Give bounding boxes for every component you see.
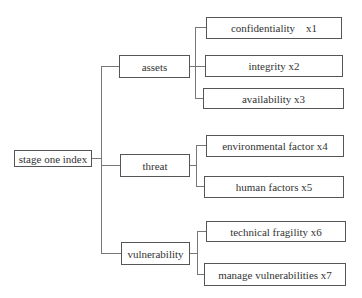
connector-to-x1 [195, 27, 206, 28]
connector-vulnerability-branch [197, 231, 198, 274]
category-node-assets: assets [119, 55, 190, 78]
connector-to-x6 [197, 231, 206, 232]
connector-threat-branch [196, 145, 197, 187]
leaf-node-availability: availability x3 [203, 88, 344, 109]
leaf-node-human-factors: human factors x5 [204, 176, 344, 198]
connector-to-x4 [196, 145, 206, 146]
leaf-node-integrity: integrity x2 [205, 55, 343, 77]
connector-trunk-to-assets [101, 66, 120, 67]
leaf-node-confidentiality: confidentiality x1 [206, 17, 342, 39]
root-node: stage one index [14, 150, 92, 167]
leaf-node-environmental-factor: environmental factor x4 [206, 135, 344, 157]
connector-assets-branch [195, 27, 196, 98]
connector-assets-out [189, 66, 206, 67]
connector-trunk-to-threat [101, 165, 120, 166]
leaf-node-manage-vulnerabilities: manage vulnerabilities x7 [204, 263, 346, 286]
leaf-node-technical-fragility: technical fragility x6 [206, 221, 346, 242]
category-node-threat: threat [120, 154, 190, 177]
connector-to-x5 [196, 186, 204, 187]
connector-to-x7 [197, 274, 204, 275]
category-node-vulnerability: vulnerability [121, 242, 190, 265]
connector-trunk-to-vulnerability [101, 253, 121, 254]
connector-trunk [101, 66, 102, 254]
